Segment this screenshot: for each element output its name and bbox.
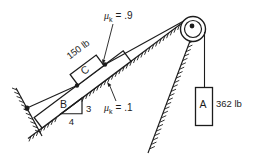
block-a-letter: A bbox=[199, 98, 206, 110]
mu-top-leader-line bbox=[104, 24, 113, 60]
block-b-letter: B bbox=[60, 98, 67, 110]
slope-rise-label: 3 bbox=[86, 103, 91, 114]
bar-b bbox=[34, 51, 131, 128]
rope-c-to-pulley bbox=[105, 18, 190, 65]
mu-bottom-label: μk= .1 bbox=[103, 102, 133, 115]
knot-dot-left bbox=[75, 83, 79, 87]
figure-canvas: 150 lb μk= .9 μk= .1 C B 3 4 A 362 lb bbox=[0, 0, 257, 161]
slope-run-label: 4 bbox=[69, 116, 74, 127]
physics-figure: 150 lb μk= .9 μk= .1 C B 3 4 A 362 lb bbox=[0, 0, 257, 161]
mu-bottom-arrowhead-icon bbox=[107, 82, 111, 87]
weight-c-label: 150 lb bbox=[64, 37, 91, 61]
wall bbox=[16, 88, 42, 136]
mu-bottom-leader-line bbox=[110, 86, 116, 101]
pulley-axle-dot bbox=[190, 24, 195, 29]
incline-right-face bbox=[148, 41, 190, 153]
mu-top-label: μk= .9 bbox=[103, 10, 133, 23]
incline-right-face-hatch bbox=[150, 41, 194, 149]
weight-a-label: 362 lb bbox=[216, 98, 242, 109]
wall-anchor-dot bbox=[25, 106, 30, 111]
